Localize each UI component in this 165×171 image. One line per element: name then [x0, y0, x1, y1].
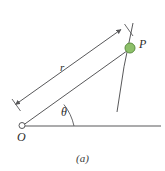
constant-radius-arc: [117, 23, 133, 112]
point-p-marker: [125, 43, 135, 53]
origin-marker: [19, 123, 25, 129]
dimension-extension-tick-origin: [12, 99, 21, 111]
radius-line: [22, 48, 131, 126]
polar-coordinate-diagram: [0, 0, 165, 171]
radius-label: r: [60, 62, 64, 73]
point-p-label: P: [139, 38, 146, 50]
origin-label: O: [17, 131, 26, 143]
figure-caption: (a): [0, 152, 165, 164]
angle-label: θ: [61, 106, 67, 118]
figure-container: r θ P O (a): [0, 0, 165, 171]
